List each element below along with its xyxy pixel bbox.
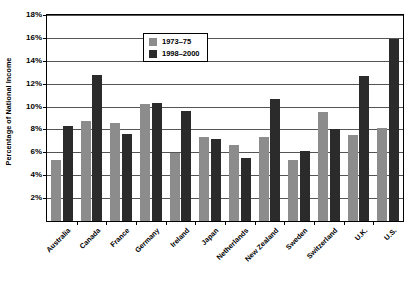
y-tick-label: 10% [26, 101, 42, 110]
bar [170, 153, 180, 221]
y-tick-label: 8% [30, 124, 42, 133]
bar-chart: Percentage of National Income 2%4%6%8%10… [0, 0, 418, 290]
y-axis-title-text: Percentage of National Income [5, 57, 14, 165]
bars-layer [47, 15, 403, 221]
plot-area [46, 14, 404, 222]
x-tick-label: Canada [77, 226, 102, 251]
x-tick-label: Japan [199, 226, 220, 247]
bar [51, 160, 61, 221]
legend: 1973–751998–2000 [143, 33, 208, 62]
bar-group [373, 15, 403, 221]
bar-group [47, 15, 77, 221]
x-tick-label: France [108, 226, 131, 249]
x-tick-label: Ireland [168, 226, 191, 249]
bar-group [284, 15, 314, 221]
legend-entry: 1973–75 [149, 37, 200, 46]
x-tick-label: Switzerland [305, 226, 340, 261]
bar [199, 137, 209, 221]
y-tick-label: 16% [26, 32, 42, 41]
bar [181, 111, 191, 221]
bar [140, 104, 150, 221]
bar [122, 134, 132, 221]
bar-group [77, 15, 107, 221]
bar [270, 99, 280, 221]
x-tick-label: Germany [133, 226, 161, 254]
bar [377, 128, 387, 221]
y-tick-label: 14% [26, 55, 42, 64]
bar [259, 137, 269, 221]
bar [63, 126, 73, 221]
bar [152, 103, 162, 221]
bar-group [225, 15, 255, 221]
y-tick-label: 4% [30, 170, 42, 179]
y-axis-tick-labels: 2%4%6%8%10%12%14%16%18% [16, 14, 44, 222]
x-axis-tick-labels: AustraliaCanadaFranceGermanyIrelandJapan… [46, 222, 404, 290]
bar [211, 139, 221, 221]
bar [318, 112, 328, 221]
y-tick-label: 2% [30, 193, 42, 202]
x-tick-label: Australia [44, 226, 72, 254]
legend-label: 1973–75 [162, 37, 191, 46]
bar [288, 160, 298, 221]
bar-group [106, 15, 136, 221]
x-tick-label: Sweden [284, 226, 310, 252]
x-tick-label: U.K. [352, 226, 369, 243]
bar-group [255, 15, 285, 221]
bar-group [314, 15, 344, 221]
bar [92, 75, 102, 221]
bar [229, 145, 239, 221]
bar [110, 123, 120, 221]
bar [81, 121, 91, 221]
bar [389, 39, 399, 221]
bar [241, 158, 251, 221]
bar [330, 129, 340, 221]
bar [359, 76, 369, 221]
y-tick-label: 12% [26, 78, 42, 87]
legend-entry: 1998–2000 [149, 49, 200, 58]
y-tick-label: 18% [26, 10, 42, 19]
legend-label: 1998–2000 [162, 49, 200, 58]
bar [300, 151, 310, 221]
legend-swatch [149, 50, 157, 58]
y-tick-label: 6% [30, 147, 42, 156]
bar-group [344, 15, 374, 221]
x-tick-label: U.S. [382, 226, 398, 242]
legend-swatch [149, 38, 157, 46]
bar [348, 135, 358, 221]
